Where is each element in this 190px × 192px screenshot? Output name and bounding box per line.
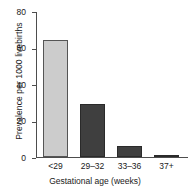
y-tick-label: 40 [17, 80, 26, 90]
y-tick: 60 [32, 49, 36, 50]
x-axis-line [36, 157, 188, 158]
y-tick: 0 [32, 158, 36, 159]
x-tick-label: 37+ [142, 161, 190, 171]
bar-group: 37+ [154, 12, 179, 157]
bar [117, 146, 142, 157]
bar-series: <2929–3233–3637+ [37, 12, 184, 157]
bar [80, 104, 105, 157]
x-axis-title: Gestational age (weeks) [0, 176, 190, 186]
y-tick-label: 60 [17, 43, 26, 53]
plot-area: 020406080 <2929–3233–3637+ [36, 12, 184, 158]
bar [43, 40, 68, 157]
y-tick-label: 80 [17, 7, 26, 17]
y-tick: 40 [32, 85, 36, 86]
y-tick-label: 20 [17, 116, 26, 126]
bar [154, 155, 179, 157]
bar-chart: Prevalence per 1000 livebirths 020406080… [0, 0, 190, 192]
y-tick-label: 0 [21, 153, 26, 163]
bar-group: 33–36 [117, 12, 142, 157]
bar-group: 29–32 [80, 12, 105, 157]
bar-group: <29 [43, 12, 68, 157]
y-tick: 20 [32, 122, 36, 123]
y-tick: 80 [32, 12, 36, 13]
